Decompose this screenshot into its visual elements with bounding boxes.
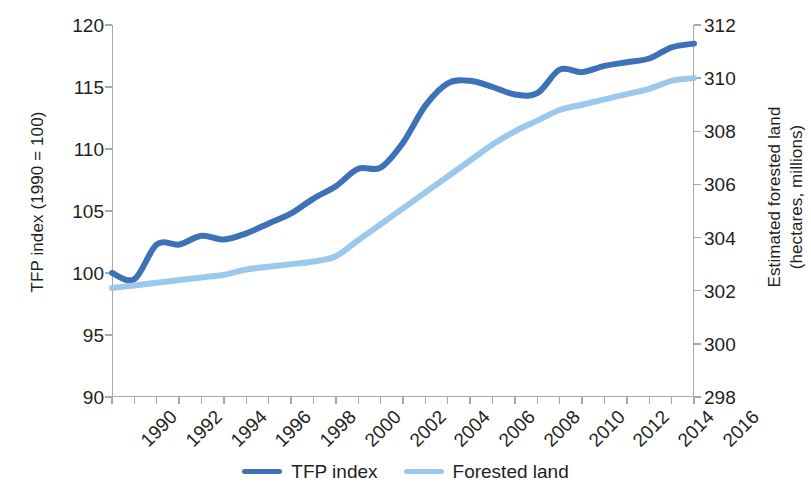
y-axis-left-tick-label: 110 bbox=[62, 140, 104, 159]
x-axis-tick bbox=[693, 397, 694, 404]
y-axis-right-tick-label: 300 bbox=[704, 334, 736, 353]
x-axis-tick-label: 1996 bbox=[271, 406, 316, 451]
x-axis-tick-labels: 1990199219941996199820002002200420062008… bbox=[112, 404, 694, 464]
x-axis-tick-label: 2004 bbox=[450, 406, 495, 451]
x-axis-tick-label: 2010 bbox=[584, 406, 629, 451]
y-axis-right-tick bbox=[694, 237, 701, 238]
series-lines bbox=[112, 25, 694, 397]
x-axis-tick bbox=[178, 397, 179, 404]
x-axis-tick bbox=[559, 397, 560, 404]
x-axis-tick bbox=[626, 397, 627, 404]
y-axis-left-tick-labels: 9095100105110115120 bbox=[62, 25, 104, 397]
x-axis-tick bbox=[581, 397, 582, 404]
x-axis-tick bbox=[268, 397, 269, 404]
y-axis-right-tick-labels: 298300302304306308310312 bbox=[704, 25, 750, 397]
y-axis-right-title-line2: (hectares, millions) bbox=[786, 47, 808, 347]
y-axis-left-tick-label: 90 bbox=[62, 388, 104, 407]
x-axis-tick bbox=[313, 397, 314, 404]
x-axis-tick bbox=[223, 397, 224, 404]
x-axis-tick bbox=[514, 397, 515, 404]
y-axis-right-title: Estimated forested land (hectares, milli… bbox=[764, 47, 808, 347]
y-axis-left-title: TFP index (1990 = 100) bbox=[28, 52, 48, 352]
y-axis-left-tick bbox=[105, 334, 112, 335]
y-axis-left-tick bbox=[105, 86, 112, 87]
x-axis-tick bbox=[246, 397, 247, 404]
x-axis-tick-label: 2006 bbox=[495, 406, 540, 451]
legend-label: TFP index bbox=[291, 462, 377, 481]
y-axis-left-tick-label: 115 bbox=[62, 78, 104, 97]
y-axis-right-tick-label: 298 bbox=[704, 388, 736, 407]
y-axis-right-tick bbox=[694, 184, 701, 185]
y-axis-left-tick bbox=[105, 24, 112, 25]
y-axis-right-tick-label: 312 bbox=[704, 16, 736, 35]
y-axis-left-tick-label: 120 bbox=[62, 16, 104, 35]
x-axis-tick bbox=[425, 397, 426, 404]
x-axis-tick-label: 2002 bbox=[405, 406, 450, 451]
y-axis-right-title-line1: Estimated forested land bbox=[764, 47, 786, 347]
x-axis-tick-label: 2008 bbox=[539, 406, 584, 451]
x-axis-tick bbox=[492, 397, 493, 404]
y-axis-left-tick bbox=[105, 210, 112, 211]
x-axis-tick bbox=[358, 397, 359, 404]
x-axis-tick bbox=[537, 397, 538, 404]
x-axis-tick bbox=[201, 397, 202, 404]
y-axis-right-tick-label: 310 bbox=[704, 69, 736, 88]
y-axis-left-tick-label: 95 bbox=[62, 326, 104, 345]
legend-swatch-icon bbox=[242, 469, 282, 474]
y-axis-right-tick-label: 308 bbox=[704, 122, 736, 141]
y-axis-right-tick bbox=[694, 24, 701, 25]
x-axis-tick-label: 1994 bbox=[226, 406, 271, 451]
chart-legend: TFP indexForested land bbox=[0, 462, 811, 481]
x-axis-tick bbox=[649, 397, 650, 404]
x-axis-tick bbox=[290, 397, 291, 404]
line-forested-land bbox=[112, 78, 694, 288]
x-axis-tick-label: 1998 bbox=[315, 406, 360, 451]
legend-swatch-icon bbox=[404, 469, 444, 474]
x-axis-tick-label: 2014 bbox=[674, 406, 719, 451]
x-axis-tick-label: 1990 bbox=[136, 406, 181, 451]
y-axis-left-tick bbox=[105, 148, 112, 149]
legend-label: Forested land bbox=[453, 462, 569, 481]
x-axis-tick bbox=[134, 397, 135, 404]
x-axis-tick-label: 2000 bbox=[360, 406, 405, 451]
x-axis-tick bbox=[156, 397, 157, 404]
chart-container: TFP index (1990 = 100) Estimated foreste… bbox=[0, 0, 811, 496]
x-axis-tick-label: 2016 bbox=[718, 406, 763, 451]
x-axis-tick-label: 2012 bbox=[629, 406, 674, 451]
x-axis-tick-label: 1992 bbox=[181, 406, 226, 451]
x-axis-tick bbox=[447, 397, 448, 404]
x-axis-tick bbox=[380, 397, 381, 404]
x-axis-tick bbox=[335, 397, 336, 404]
y-axis-right-tick bbox=[694, 131, 701, 132]
y-axis-right-tick bbox=[694, 343, 701, 344]
y-axis-right-tick-label: 302 bbox=[704, 281, 736, 300]
legend-item[interactable]: TFP index bbox=[242, 462, 377, 481]
x-axis-tick bbox=[402, 397, 403, 404]
x-axis-tick bbox=[469, 397, 470, 404]
y-axis-left-tick-label: 100 bbox=[62, 264, 104, 283]
y-axis-right-tick bbox=[694, 396, 701, 397]
y-axis-right-tick-label: 304 bbox=[704, 228, 736, 247]
y-axis-left-tick-label: 105 bbox=[62, 202, 104, 221]
x-axis-tick bbox=[111, 397, 112, 404]
line-tfp-index bbox=[112, 44, 694, 281]
y-axis-right-tick bbox=[694, 290, 701, 291]
x-axis-tick bbox=[671, 397, 672, 404]
x-axis-tick bbox=[604, 397, 605, 404]
plot-area bbox=[112, 25, 694, 397]
y-axis-right-tick-label: 306 bbox=[704, 175, 736, 194]
legend-item[interactable]: Forested land bbox=[404, 462, 569, 481]
